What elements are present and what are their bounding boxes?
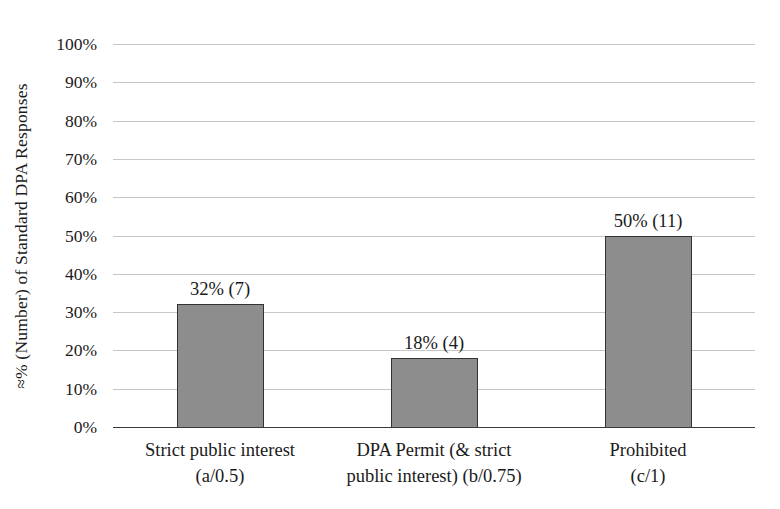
bar-3 [605, 236, 692, 428]
y-tick-label-60: 60% [65, 187, 97, 208]
y-tick-label-50: 50% [65, 225, 97, 246]
x-category-label-3: Prohibited(c/1) [533, 437, 763, 489]
y-tick-label-90: 90% [65, 72, 97, 93]
x-axis-line [113, 427, 755, 428]
gridline-90 [113, 82, 755, 83]
x-category-label-line: (c/1) [533, 463, 763, 489]
y-tick-label-0: 0% [74, 417, 97, 438]
plot-area: 32% (7)18% (4)50% (11) [113, 44, 755, 427]
bar-chart: ≈% (Number) of Standard DPA Responses 32… [0, 0, 780, 509]
bar-value-label-3: 50% (11) [614, 211, 683, 232]
bar-value-label-1: 32% (7) [190, 279, 250, 300]
x-category-label-line: Strict public interest [105, 437, 335, 463]
x-category-label-line: (a/0.5) [105, 463, 335, 489]
gridline-80 [113, 121, 755, 122]
y-axis-title: ≈% (Number) of Standard DPA Responses [11, 83, 32, 389]
x-category-label-line: Prohibited [533, 437, 763, 463]
bar-2 [391, 358, 478, 427]
y-tick-label-10: 10% [65, 378, 97, 399]
y-tick-label-20: 20% [65, 340, 97, 361]
gridline-70 [113, 159, 755, 160]
gridline-100 [113, 44, 755, 45]
y-tick-label-80: 80% [65, 110, 97, 131]
bar-value-label-2: 18% (4) [404, 333, 464, 354]
y-tick-label-70: 70% [65, 148, 97, 169]
y-tick-label-100: 100% [56, 34, 97, 55]
bar-1 [177, 304, 264, 427]
gridline-60 [113, 197, 755, 198]
x-category-label-2: DPA Permit (& strictpublic interest) (b/… [319, 437, 549, 489]
x-category-label-line: public interest) (b/0.75) [319, 463, 549, 489]
y-tick-label-40: 40% [65, 263, 97, 284]
x-category-label-line: DPA Permit (& strict [319, 437, 549, 463]
x-category-label-1: Strict public interest(a/0.5) [105, 437, 335, 489]
y-tick-label-30: 30% [65, 302, 97, 323]
